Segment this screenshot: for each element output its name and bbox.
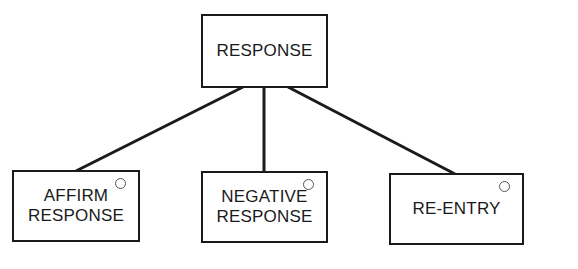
node-label: AFFIRM [44, 186, 108, 206]
node-response: RESPONSE [201, 14, 328, 88]
edge-response-affirm [76, 87, 243, 171]
circle-icon [115, 178, 126, 189]
node-affirm-response: AFFIRM RESPONSE [12, 170, 140, 242]
node-label: NEGATIVE [221, 187, 307, 207]
node-label: RESPONSE [216, 41, 312, 61]
edge-response-reentry [288, 87, 455, 174]
node-label: RE-ENTRY [412, 199, 500, 219]
node-negative-response: NEGATIVE RESPONSE [201, 171, 328, 243]
circle-icon [499, 181, 510, 192]
circle-icon [303, 179, 314, 190]
node-label: RESPONSE [28, 206, 124, 226]
node-label: RESPONSE [216, 207, 312, 227]
node-re-entry: RE-ENTRY [389, 173, 524, 245]
